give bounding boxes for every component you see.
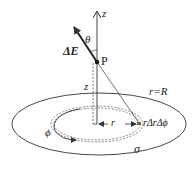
area-element-label: rΔrΔϕ: [143, 118, 168, 128]
radius-label: r: [111, 118, 115, 128]
area-element: [137, 122, 141, 125]
disk-edge-label: r=R: [149, 86, 167, 97]
height-z-label: z: [84, 81, 88, 92]
delta-e-label: ΔE: [63, 45, 79, 57]
disk-field-diagram: z θ ΔE P z r=R r rΔrΔϕ ϕ σ: [0, 0, 194, 169]
phi-label: ϕ: [45, 127, 51, 138]
theta-label: θ: [85, 34, 90, 45]
point-p: [95, 60, 99, 64]
sigma-label: σ: [134, 143, 140, 155]
p-to-element-line: [97, 62, 139, 123]
phi-arc-arrow: [54, 109, 80, 140]
z-axis-label: z: [102, 8, 106, 19]
point-p-label: P: [101, 55, 108, 67]
